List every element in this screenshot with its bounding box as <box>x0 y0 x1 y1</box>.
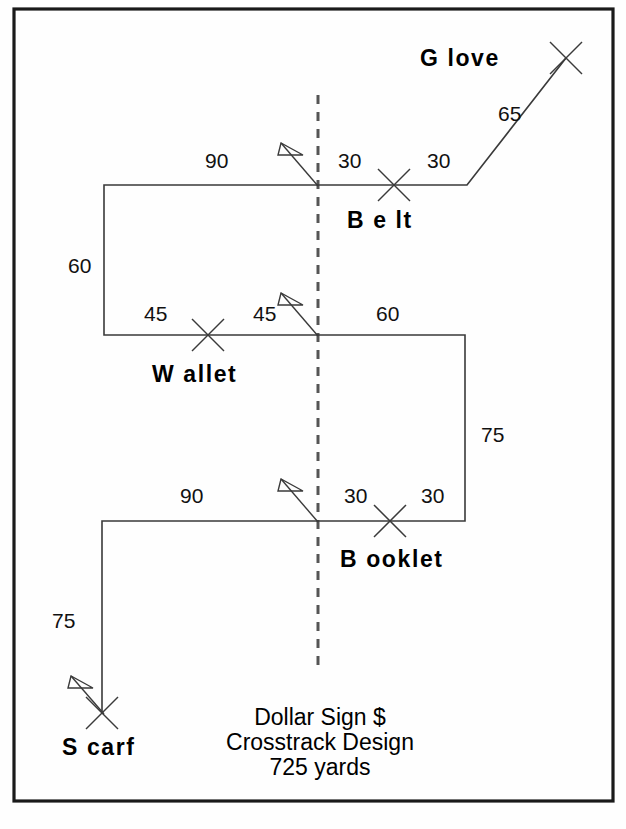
distance-labels: 65 90 30 30 60 45 45 60 75 90 30 30 75 <box>52 102 521 632</box>
distance-label: 45 <box>253 302 276 325</box>
distance-label: 90 <box>180 484 203 507</box>
distance-label: 30 <box>421 484 444 507</box>
flag-icon-booklet <box>278 479 318 522</box>
distance-label: 30 <box>427 149 450 172</box>
distance-label: 30 <box>338 149 361 172</box>
station-label-glove: G love <box>420 45 500 71</box>
station-label-booklet: B ooklet <box>340 546 444 572</box>
station-label-belt: B e lt <box>347 207 413 233</box>
diagram-page: 65 90 30 30 60 45 45 60 75 90 30 30 75 G… <box>0 0 626 829</box>
distance-label: 90 <box>205 149 228 172</box>
x-marker-glove <box>550 42 582 74</box>
distance-label: 45 <box>144 302 167 325</box>
distance-label: 60 <box>68 254 91 277</box>
distance-label: 60 <box>376 302 399 325</box>
distance-label: 75 <box>52 609 75 632</box>
caption-block: Dollar Sign $ Crosstrack Design 725 yard… <box>226 704 414 780</box>
flag-icon-scarf <box>68 676 104 714</box>
distance-label: 30 <box>344 484 367 507</box>
crosstrack-diagram: 65 90 30 30 60 45 45 60 75 90 30 30 75 G… <box>0 0 626 829</box>
distance-label: 65 <box>498 102 521 125</box>
station-label-scarf: S carf <box>62 734 136 760</box>
flag-markers <box>68 143 318 714</box>
distance-label: 75 <box>481 423 504 446</box>
caption-line-design-name: Dollar Sign $ <box>254 704 386 730</box>
caption-line-total-distance: 725 yards <box>269 754 370 780</box>
diagram-frame <box>14 9 613 801</box>
station-label-wallet: W allet <box>152 361 237 387</box>
flag-icon-wallet <box>278 293 318 336</box>
flag-icon-belt <box>278 143 318 186</box>
caption-line-design-type: Crosstrack Design <box>226 729 414 755</box>
